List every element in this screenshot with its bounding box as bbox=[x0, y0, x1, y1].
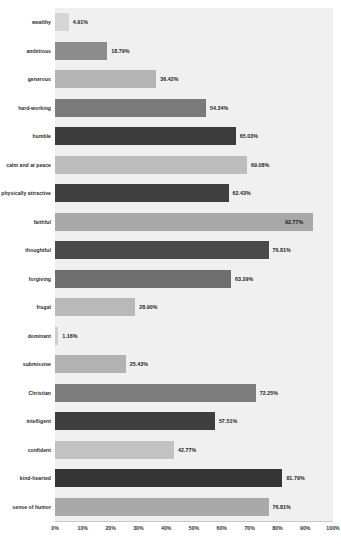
category-label: confident bbox=[0, 447, 55, 453]
bar-track: 54.34% bbox=[55, 94, 341, 123]
bar-value-label: 63.29% bbox=[235, 276, 253, 282]
x-axis-tick-label: 80% bbox=[272, 525, 282, 531]
x-axis-tick-label: 20% bbox=[105, 525, 115, 531]
bar-track: 42.77% bbox=[55, 436, 341, 465]
bar-track: 18.79% bbox=[55, 37, 341, 66]
bar-track: 76.81% bbox=[55, 236, 341, 265]
bar-value-label: 18.79% bbox=[111, 48, 129, 54]
bar-track: 65.03% bbox=[55, 122, 341, 151]
bar-value-label: 28.90% bbox=[139, 304, 157, 310]
category-label: physically attractive bbox=[0, 190, 55, 196]
category-label: humble bbox=[0, 133, 55, 139]
bar-row: forgiving63.29% bbox=[0, 265, 341, 294]
bar bbox=[55, 42, 107, 60]
bar-track: 25.43% bbox=[55, 350, 341, 379]
bar-track: 63.29% bbox=[55, 265, 341, 294]
category-label: calm and at peace bbox=[0, 162, 55, 168]
category-label: ambitious bbox=[0, 48, 55, 54]
x-axis-tick-label: 50% bbox=[189, 525, 199, 531]
bar-value-label: 54.34% bbox=[210, 105, 228, 111]
bar-track: 36.42% bbox=[55, 65, 341, 94]
bar-row: wealthy4.91% bbox=[0, 8, 341, 37]
bar-value-label: 76.81% bbox=[273, 504, 291, 510]
bar-row: humble65.03% bbox=[0, 122, 341, 151]
category-label: submissive bbox=[0, 361, 55, 367]
category-label: forgiving bbox=[0, 276, 55, 282]
bar-row: kind-hearted81.79% bbox=[0, 464, 341, 493]
bar-value-label: 72.25% bbox=[260, 390, 278, 396]
bar bbox=[55, 298, 135, 316]
bar-track: 72.25% bbox=[55, 379, 341, 408]
category-label: Christian bbox=[0, 390, 55, 396]
category-label: intelligent bbox=[0, 418, 55, 424]
x-axis-tick-label: 30% bbox=[133, 525, 143, 531]
bar bbox=[55, 184, 229, 202]
bar-rows-container: wealthy4.91%ambitious18.79%generous36.42… bbox=[0, 8, 341, 521]
bar bbox=[55, 469, 282, 487]
bar bbox=[55, 441, 174, 459]
bar bbox=[55, 327, 58, 345]
bar-row: frugal28.90% bbox=[0, 293, 341, 322]
bar bbox=[55, 127, 236, 145]
bar-value-label: 36.42% bbox=[160, 76, 178, 82]
bar-value-label: 42.77% bbox=[178, 447, 196, 453]
x-axis-tick-label: 60% bbox=[217, 525, 227, 531]
bar-value-label: 92.77% bbox=[285, 219, 303, 225]
x-axis-tick-label: 90% bbox=[300, 525, 310, 531]
bar-row: faithful92.77% bbox=[0, 208, 341, 237]
x-axis-tick-label: 70% bbox=[244, 525, 254, 531]
bar bbox=[55, 498, 269, 516]
bar-value-label: 65.03% bbox=[240, 133, 258, 139]
bar-value-label: 25.43% bbox=[130, 361, 148, 367]
bar-track: 1.16% bbox=[55, 322, 341, 351]
bar bbox=[55, 13, 69, 31]
category-label: hard-working bbox=[0, 105, 55, 111]
bar-track: 62.43% bbox=[55, 179, 341, 208]
x-axis-tick-label: 100% bbox=[326, 525, 339, 531]
bar-row: submissive25.43% bbox=[0, 350, 341, 379]
bar-track: 81.79% bbox=[55, 464, 341, 493]
bar-chart: wealthy4.91%ambitious18.79%generous36.42… bbox=[0, 0, 341, 546]
bar bbox=[55, 213, 313, 231]
bar-track: 28.90% bbox=[55, 293, 341, 322]
category-label: frugal bbox=[0, 304, 55, 310]
bar-value-label: 4.91% bbox=[73, 19, 88, 25]
bar-row: ambitious18.79% bbox=[0, 37, 341, 66]
bar-row: intelligent57.51% bbox=[0, 407, 341, 436]
bar-row: confident42.77% bbox=[0, 436, 341, 465]
bar-row: sense of humor76.81% bbox=[0, 493, 341, 522]
bar-value-label: 57.51% bbox=[219, 418, 237, 424]
x-axis-line bbox=[55, 521, 333, 522]
category-label: sense of humor bbox=[0, 504, 55, 510]
bar bbox=[55, 412, 215, 430]
bar-track: 76.81% bbox=[55, 493, 341, 522]
category-label: generous bbox=[0, 76, 55, 82]
category-label: wealthy bbox=[0, 19, 55, 25]
x-axis-tick-label: 10% bbox=[78, 525, 88, 531]
bar bbox=[55, 99, 206, 117]
category-label: thoughtful bbox=[0, 247, 55, 253]
x-axis-tick-label: 0% bbox=[51, 525, 59, 531]
bar bbox=[55, 156, 247, 174]
bar-track: 4.91% bbox=[55, 8, 341, 37]
bar-value-label: 76.81% bbox=[273, 247, 291, 253]
bar bbox=[55, 241, 269, 259]
bar bbox=[55, 384, 256, 402]
bar-track: 57.51% bbox=[55, 407, 341, 436]
bar-value-label: 81.79% bbox=[286, 475, 304, 481]
bar-row: hard-working54.34% bbox=[0, 94, 341, 123]
category-label: dominant bbox=[0, 333, 55, 339]
bar-row: thoughtful76.81% bbox=[0, 236, 341, 265]
bar-value-label: 69.08% bbox=[251, 162, 269, 168]
bar-row: Christian72.25% bbox=[0, 379, 341, 408]
bar-track: 92.77% bbox=[55, 208, 341, 237]
bar bbox=[55, 270, 231, 288]
bar-row: physically attractive62.43% bbox=[0, 179, 341, 208]
bar-value-label: 62.43% bbox=[233, 190, 251, 196]
category-label: kind-hearted bbox=[0, 475, 55, 481]
bar bbox=[55, 70, 156, 88]
x-axis: 0%10%20%30%40%50%60%70%80%90%100% bbox=[55, 521, 333, 541]
bar-track: 69.08% bbox=[55, 151, 341, 180]
x-axis-tick-label: 40% bbox=[161, 525, 171, 531]
bar-row: dominant1.16% bbox=[0, 322, 341, 351]
